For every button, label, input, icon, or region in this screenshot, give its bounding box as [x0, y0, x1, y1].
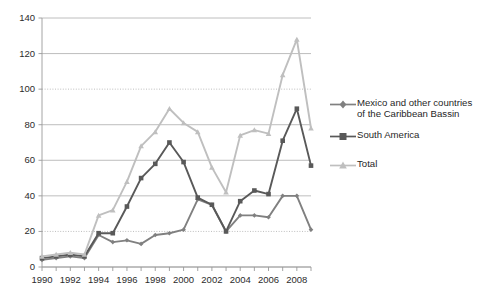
triangle-marker-icon [330, 159, 356, 172]
series-square [40, 106, 314, 260]
legend-item-south-america[interactable]: South America [330, 129, 482, 143]
x-axis-tick-label: 1998 [139, 274, 171, 285]
chart-legend: Mexico and other countriesof the Caribbe… [330, 97, 482, 181]
x-axis-tick-label: 2006 [253, 274, 285, 285]
x-axis-tick-label: 2008 [281, 274, 313, 285]
y-axis-tick-label: 20 [0, 225, 35, 236]
legend-label-south-america: South America [356, 129, 419, 140]
y-axis-tick-label: 100 [0, 83, 35, 94]
x-axis-tick-label: 2000 [168, 274, 200, 285]
square-marker-icon [330, 130, 356, 143]
y-axis-tick-label: 60 [0, 154, 35, 165]
x-axis-tick-label: 1996 [111, 274, 143, 285]
y-axis-tick-label: 40 [0, 190, 35, 201]
series-triangle [39, 37, 314, 259]
x-axis-tick-label: 2004 [224, 274, 256, 285]
legend-label-total: Total [356, 158, 377, 169]
x-axis-tick-label: 2002 [196, 274, 228, 285]
y-axis-tick-label: 80 [0, 119, 35, 130]
legend-item-mexico[interactable]: Mexico and other countriesof the Caribbe… [330, 97, 482, 120]
x-axis-tick-label: 1992 [54, 274, 86, 285]
y-axis-tick-label: 120 [0, 48, 35, 59]
y-axis-tick-label: 0 [0, 261, 35, 272]
legend-label-mexico: Mexico and other countriesof the Caribbe… [356, 97, 472, 120]
diamond-marker-icon [330, 98, 356, 111]
series-diamond [40, 194, 314, 263]
chart-figure: 020406080100120140 199019921994199619982… [0, 0, 487, 301]
y-axis-tick-label: 140 [0, 12, 35, 23]
legend-item-total[interactable]: Total [330, 158, 482, 172]
x-axis-tick-label: 1990 [26, 274, 58, 285]
x-axis-tick-label: 1994 [83, 274, 115, 285]
